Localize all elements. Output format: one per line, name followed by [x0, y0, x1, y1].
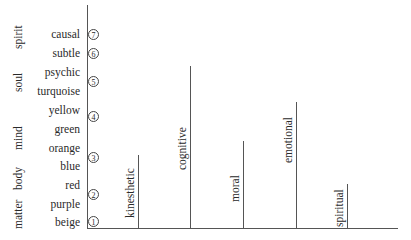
- level-number-1: 1: [88, 216, 99, 227]
- level-number-2: 2: [88, 189, 99, 200]
- level-label-turquoise: turquoise: [37, 85, 80, 97]
- quadrant-label-mind: mind: [12, 126, 24, 150]
- level-label-subtle: subtle: [53, 47, 80, 59]
- line-spiritual: [347, 184, 348, 228]
- line-cognitive: [190, 66, 191, 228]
- level-label-psychic: psychic: [45, 66, 80, 78]
- line-label-emotional: emotional: [282, 117, 294, 163]
- quadrant-label-spirit: spirit: [12, 25, 24, 49]
- level-label-causal: causal: [51, 28, 80, 40]
- horizontal-axis: [87, 228, 398, 229]
- level-label-orange: orange: [49, 142, 80, 154]
- line-label-spiritual: spiritual: [333, 189, 345, 227]
- level-label-beige: beige: [55, 216, 80, 228]
- level-label-green: green: [54, 123, 80, 135]
- level-label-blue: blue: [60, 160, 80, 172]
- quadrant-label-matter: matter: [12, 200, 24, 229]
- level-label-red: red: [65, 179, 80, 191]
- line-label-kinesthetic: kinesthetic: [124, 168, 136, 218]
- line-label-moral: moral: [229, 175, 241, 202]
- level-label-yellow: yellow: [49, 104, 80, 116]
- line-moral: [243, 141, 244, 228]
- quadrant-label-body: body: [12, 167, 24, 190]
- level-number-3: 3: [88, 152, 99, 163]
- line-label-cognitive: cognitive: [176, 127, 188, 170]
- level-number-6: 6: [88, 48, 99, 59]
- level-number-5: 5: [88, 76, 99, 87]
- line-emotional: [296, 102, 297, 228]
- line-kinesthetic: [138, 155, 139, 228]
- level-label-purple: purple: [51, 198, 80, 210]
- level-number-4: 4: [88, 111, 99, 122]
- quadrant-label-soul: soul: [12, 73, 24, 92]
- level-number-7: 7: [88, 29, 99, 40]
